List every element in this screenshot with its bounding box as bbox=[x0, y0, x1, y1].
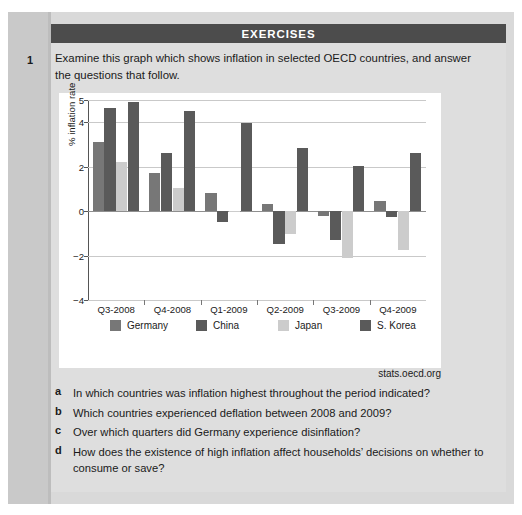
exercises-title: EXERCISES bbox=[242, 28, 316, 40]
legend-item-s-korea: S. Korea bbox=[360, 320, 416, 331]
legend-label: China bbox=[213, 320, 239, 331]
y-tick-mark bbox=[84, 100, 88, 101]
exercise-stem: Examine this graph which shows inflation… bbox=[55, 50, 480, 84]
y-tick-mark bbox=[84, 256, 88, 257]
y-axis-line bbox=[88, 100, 89, 300]
bar-s-korea-q2-2009 bbox=[297, 148, 308, 211]
bar-s-korea-q4-2008 bbox=[184, 111, 195, 211]
question-letter: b bbox=[55, 405, 69, 417]
y-axis-label: % inflation rate bbox=[66, 83, 77, 146]
bar-japan-q4-2009 bbox=[398, 211, 409, 250]
question-text: How does the existence of high inflation… bbox=[73, 444, 485, 477]
legend-swatch-icon bbox=[360, 320, 371, 331]
legend-label: Japan bbox=[295, 320, 322, 331]
x-tick-label: Q3-2009 bbox=[323, 304, 360, 315]
bar-china-q3-2009 bbox=[330, 211, 341, 240]
bar-s-korea-q3-2009 bbox=[353, 166, 364, 212]
bar-s-korea-q1-2009 bbox=[241, 123, 252, 211]
question-letter: d bbox=[55, 444, 69, 456]
x-group-separator bbox=[370, 300, 371, 305]
gridline bbox=[88, 211, 426, 212]
y-tick-label: 5 bbox=[79, 95, 84, 106]
question-text: In which countries was inflation highest… bbox=[73, 385, 485, 402]
bar-china-q1-2009 bbox=[217, 211, 228, 222]
bar-germany-q3-2009 bbox=[318, 211, 329, 215]
question-text: Which countries experienced deflation be… bbox=[73, 405, 485, 422]
chart-card: % inflation rate 5420−2−4Q3-2008Q4-2008Q… bbox=[59, 93, 441, 368]
legend-swatch-icon bbox=[196, 320, 207, 331]
legend-label: Germany bbox=[127, 320, 168, 331]
y-tick-label: −2 bbox=[73, 250, 84, 261]
bar-germany-q4-2008 bbox=[149, 173, 160, 211]
bar-china-q4-2009 bbox=[386, 211, 397, 217]
question-item: bWhich countries experienced deflation b… bbox=[55, 405, 485, 422]
gridline bbox=[88, 256, 426, 257]
y-tick-label: −4 bbox=[73, 295, 84, 306]
bar-germany-q2-2009 bbox=[262, 204, 273, 211]
question-letter: a bbox=[55, 385, 69, 397]
legend-item-china: China bbox=[196, 320, 239, 331]
exercise-number: 1 bbox=[27, 54, 33, 66]
bar-s-korea-q3-2008 bbox=[128, 102, 139, 211]
x-group-separator bbox=[201, 300, 202, 305]
x-group-separator bbox=[313, 300, 314, 305]
legend-label: S. Korea bbox=[377, 320, 416, 331]
page-gutter bbox=[8, 12, 50, 504]
bar-s-korea-q4-2009 bbox=[410, 153, 421, 211]
y-tick-label: 2 bbox=[79, 161, 84, 172]
bar-germany-q1-2009 bbox=[205, 193, 216, 211]
y-tick-mark bbox=[84, 211, 88, 212]
bar-china-q2-2009 bbox=[273, 211, 284, 244]
y-tick-mark bbox=[84, 167, 88, 168]
x-tick-label: Q1-2009 bbox=[210, 304, 247, 315]
x-group-separator bbox=[144, 300, 145, 305]
y-tick-mark bbox=[84, 300, 88, 301]
bar-chart-plot: % inflation rate 5420−2−4Q3-2008Q4-2008Q… bbox=[88, 100, 426, 300]
question-item: dHow does the existence of high inflatio… bbox=[55, 444, 485, 477]
x-tick-label: Q4-2009 bbox=[379, 304, 416, 315]
x-group-separator bbox=[257, 300, 258, 305]
chart-source: stats.oecd.org bbox=[59, 368, 441, 379]
bar-japan-q3-2009 bbox=[342, 211, 353, 258]
bar-germany-q4-2009 bbox=[374, 201, 385, 211]
y-tick-mark bbox=[84, 122, 88, 123]
bar-japan-q2-2009 bbox=[285, 211, 296, 234]
y-tick-label: 4 bbox=[79, 117, 84, 128]
question-text: Over which quarters did Germany experien… bbox=[73, 424, 485, 441]
bar-japan-q4-2008 bbox=[173, 188, 184, 211]
question-item: cOver which quarters did Germany experie… bbox=[55, 424, 485, 441]
question-letter: c bbox=[55, 424, 69, 436]
legend-swatch-icon bbox=[110, 320, 121, 331]
legend-item-germany: Germany bbox=[110, 320, 168, 331]
bar-japan-q3-2008 bbox=[116, 162, 127, 211]
page-root: EXERCISES 1 Examine this graph which sho… bbox=[0, 0, 522, 515]
legend-swatch-icon bbox=[278, 320, 289, 331]
y-tick-label: 0 bbox=[79, 206, 84, 217]
x-tick-label: Q4-2008 bbox=[154, 304, 191, 315]
legend-item-japan: Japan bbox=[278, 320, 322, 331]
bar-china-q3-2008 bbox=[104, 108, 115, 211]
x-tick-label: Q2-2009 bbox=[266, 304, 303, 315]
bar-japan-q1-2009 bbox=[229, 211, 240, 212]
question-list: aIn which countries was inflation highes… bbox=[55, 385, 485, 480]
x-tick-label: Q3-2008 bbox=[97, 304, 134, 315]
question-item: aIn which countries was inflation highes… bbox=[55, 385, 485, 402]
bar-germany-q3-2008 bbox=[93, 142, 104, 211]
gridline bbox=[88, 100, 426, 101]
bar-china-q4-2008 bbox=[161, 153, 172, 211]
exercises-header-bar: EXERCISES bbox=[51, 24, 506, 43]
